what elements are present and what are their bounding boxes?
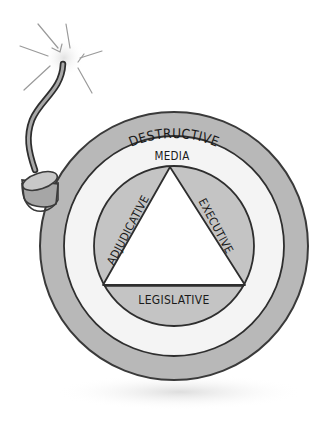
label-legislative: LEGISLATIVE [138, 293, 209, 307]
label-media: MEDIA [154, 149, 189, 163]
fuse-cap [20, 168, 59, 211]
bomb-diagram: DESTRUCTIVE MEDIA ADJUDICATIVE EXECUTIVE… [0, 0, 327, 421]
